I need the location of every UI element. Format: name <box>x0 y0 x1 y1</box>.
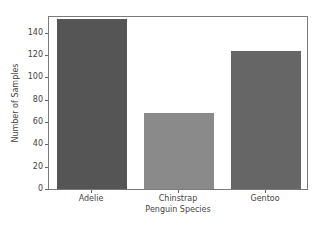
x-tick-label: Adelie <box>51 194 131 203</box>
plot-area <box>48 16 308 190</box>
y-tick-mark <box>45 189 48 190</box>
y-tick: 60 <box>2 118 48 128</box>
y-tick-label: 0 <box>38 184 43 193</box>
x-tick: Adelie <box>51 190 131 203</box>
y-tick: 40 <box>2 140 48 150</box>
bar-gentoo <box>231 51 301 189</box>
y-tick: 100 <box>2 73 48 83</box>
x-tick-mark <box>178 190 179 193</box>
x-tick: Chinstrap <box>138 190 218 203</box>
y-tick-label: 60 <box>33 117 43 126</box>
y-tick-mark <box>45 167 48 168</box>
y-tick-mark <box>45 122 48 123</box>
x-tick: Gentoo <box>225 190 305 203</box>
y-tick: 140 <box>2 29 48 39</box>
y-tick: 120 <box>2 51 48 61</box>
x-axis-label: Penguin Species <box>48 205 308 214</box>
x-tick-mark <box>265 190 266 193</box>
y-tick-mark <box>45 144 48 145</box>
bar-adelie <box>57 19 127 189</box>
y-tick-label: 140 <box>28 28 43 37</box>
y-tick-mark <box>45 100 48 101</box>
y-axis-label: Number of Samples <box>11 63 20 142</box>
y-tick: 80 <box>2 96 48 106</box>
y-tick-label: 120 <box>28 50 43 59</box>
y-tick-label: 20 <box>33 162 43 171</box>
y-tick: 20 <box>2 163 48 173</box>
y-tick-label: 40 <box>33 139 43 148</box>
y-tick-mark <box>45 55 48 56</box>
y-tick-mark <box>45 77 48 78</box>
y-tick-label: 80 <box>33 95 43 104</box>
y-tick-mark <box>45 33 48 34</box>
y-tick: 0 <box>2 185 48 195</box>
x-tick-mark <box>91 190 92 193</box>
x-tick-label: Chinstrap <box>138 194 218 203</box>
bar-chinstrap <box>144 113 214 189</box>
x-tick-label: Gentoo <box>225 194 305 203</box>
y-tick-label: 100 <box>28 72 43 81</box>
